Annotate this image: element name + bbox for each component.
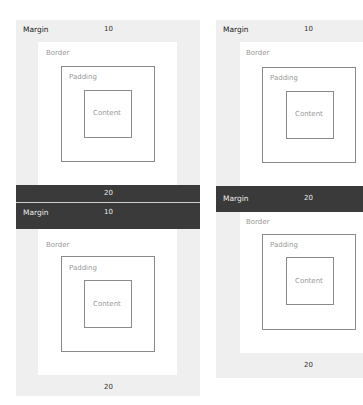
right-top-margin-label: Margin [223, 25, 249, 34]
left-collapsed-margin-value: 20 [104, 189, 113, 198]
right-top-border-label: Border [246, 49, 269, 58]
right-bottom-margin-bottom-value: 20 [304, 361, 313, 370]
left-bottom-border-label: Border [46, 241, 69, 250]
right-collapsed-margin-label: Margin [223, 194, 249, 203]
left-top-padding-label: Padding [69, 73, 97, 82]
left-top-margin-value: 10 [104, 25, 113, 34]
right-bottom-border-label: Border [246, 218, 269, 227]
left-bottom-margin-bottom-value: 20 [104, 383, 113, 392]
left-bottom-content-label: Content [93, 300, 121, 309]
right-bottom-content-label: Content [295, 277, 323, 286]
left-bottom-margin-label: Margin [23, 208, 49, 217]
left-top-margin-label: Margin [23, 25, 49, 34]
right-top-margin-value: 10 [304, 25, 313, 34]
left-bottom-padding-label: Padding [69, 264, 97, 273]
left-top-border-label: Border [46, 49, 69, 58]
right-top-content-label: Content [295, 110, 323, 119]
right-top-padding-label: Padding [270, 74, 298, 83]
left-bottom-margin-value: 10 [104, 208, 113, 217]
left-top-content-label: Content [93, 109, 121, 118]
right-bottom-padding-label: Padding [270, 241, 298, 250]
right-collapsed-margin-value: 20 [304, 194, 313, 203]
